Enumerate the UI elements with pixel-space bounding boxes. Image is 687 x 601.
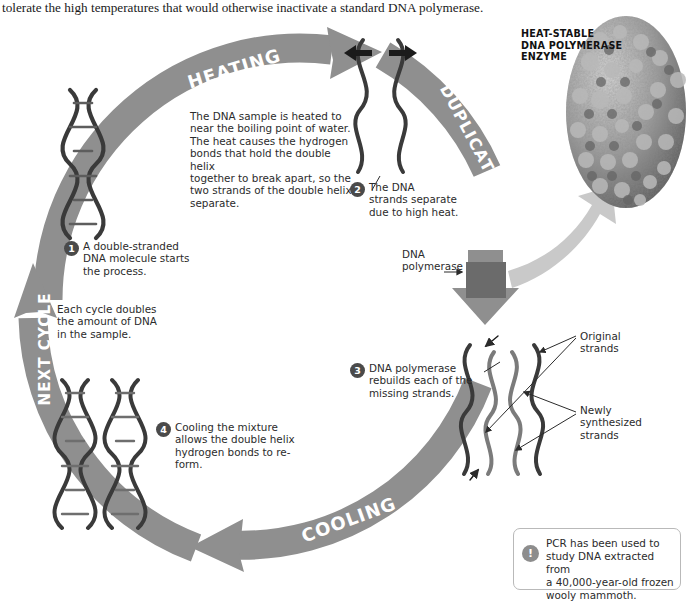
callout-step-1: 1 A double-stranded DNA molecule starts … [64, 240, 194, 277]
callout-text-3: DNA polymerase rebuilds each of the miss… [369, 362, 490, 399]
cycle-doubling-note: Each cycle doubles the amount of DNA in … [57, 303, 197, 340]
callout-text-2: The DNA strands separate due to high hea… [369, 181, 470, 218]
callout-text-4: Cooling the mixture allows the double he… [175, 421, 316, 471]
fact-box: ! PCR has been used to study DNA extract… [513, 528, 681, 590]
separation-arrows [344, 45, 417, 61]
callout-number-1: 1 [64, 241, 79, 256]
callout-number-3: 3 [350, 363, 365, 378]
callout-number-2: 2 [350, 182, 365, 197]
heating-description: The DNA sample is heated to near the boi… [190, 110, 355, 209]
label-dna-polymerase: DNA polymerase [402, 248, 463, 273]
callout-step-2: 2 The DNA strands separate due to high h… [350, 181, 470, 218]
enzyme-source-arrow [508, 186, 616, 288]
fact-box-text: PCR has been used to study DNA extracted… [546, 537, 674, 601]
arc-label-next-cycle: NEXT CYCLE [36, 293, 54, 406]
label-original-strands: Original strands [580, 330, 621, 355]
callout-text-1: A double-stranded DNA molecule starts th… [83, 240, 194, 277]
enzyme-caption: HEAT-STABLE DNA POLYMERASE ENZYME [521, 28, 622, 63]
label-newly-synthesized-strands: Newly synthesized strands [580, 404, 642, 441]
callout-number-4: 4 [156, 422, 171, 437]
pcr-diagram-page: tolerate the high temperatures that woul… [0, 0, 687, 601]
callout-step-4: 4 Cooling the mixture allows the double … [156, 421, 316, 471]
callout-step-3: 3 DNA polymerase rebuilds each of the mi… [350, 362, 490, 399]
exclamation-icon: ! [522, 545, 539, 562]
